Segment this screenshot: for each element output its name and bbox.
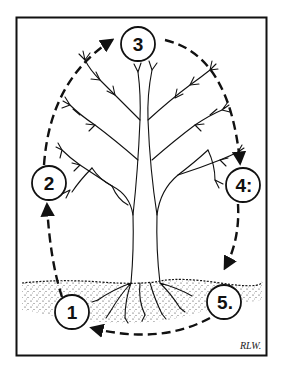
step-label-3: 3 [133, 34, 144, 55]
step-label-4: 4: [236, 175, 253, 196]
arrow-4-to-5 [225, 204, 238, 268]
step-circle-4: 4: [226, 168, 260, 202]
step-label-2: 2 [44, 173, 55, 194]
arrow-2-to-3 [44, 40, 112, 165]
artist-signature: RLW. [239, 340, 261, 351]
step-label-5: 5. [217, 292, 233, 313]
step-circle-5: 5. [207, 285, 241, 319]
step-label-1: 1 [67, 302, 78, 323]
tree-cycle-diagram: 1 2 3 4: 5. RLW. [0, 0, 283, 370]
arrow-3-to-4 [165, 40, 240, 163]
step-circle-1: 1 [55, 295, 89, 329]
step-circle-2: 2 [32, 166, 66, 200]
step-circle-3: 3 [121, 27, 155, 61]
